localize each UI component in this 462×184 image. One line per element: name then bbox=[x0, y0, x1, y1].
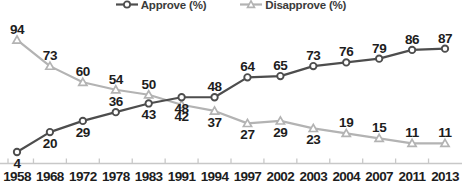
data-label: 73 bbox=[43, 49, 57, 63]
x-axis-tick-label: 1978 bbox=[102, 170, 130, 184]
approval-line-chart: Approve (%) Disapprove (%) 4202936434848… bbox=[0, 0, 462, 184]
data-label: 60 bbox=[76, 65, 90, 79]
data-label: 73 bbox=[306, 49, 320, 63]
x-axis-tick-label: 2004 bbox=[332, 170, 360, 184]
data-label: 29 bbox=[273, 126, 287, 140]
x-axis-tick-label: 1958 bbox=[3, 170, 31, 184]
data-label: 76 bbox=[339, 45, 353, 59]
data-label: 94 bbox=[10, 23, 24, 37]
data-label: 79 bbox=[372, 42, 386, 56]
x-axis-tick-label: 1994 bbox=[201, 170, 229, 184]
x-axis-tick-label: 1983 bbox=[135, 170, 163, 184]
data-label: 23 bbox=[306, 133, 320, 147]
data-label: 50 bbox=[142, 78, 156, 92]
x-axis-tick-label: 2011 bbox=[399, 170, 426, 184]
x-axis-tick-label: 1991 bbox=[168, 170, 196, 184]
data-label: 27 bbox=[240, 128, 254, 142]
data-label: 20 bbox=[43, 137, 57, 151]
data-label: 36 bbox=[109, 95, 123, 109]
x-axis-tick-label: 1972 bbox=[69, 170, 97, 184]
data-label: 54 bbox=[109, 73, 123, 87]
x-axis-tick-label: 2013 bbox=[431, 170, 459, 184]
data-label: 15 bbox=[372, 121, 386, 135]
x-axis-tick-label: 2002 bbox=[267, 170, 295, 184]
data-label: 64 bbox=[240, 60, 254, 74]
x-axis-tick-label: 1968 bbox=[36, 170, 64, 184]
data-label: 65 bbox=[273, 59, 287, 73]
data-label: 42 bbox=[175, 110, 189, 124]
data-label: 29 bbox=[76, 126, 90, 140]
data-label: 43 bbox=[142, 108, 156, 122]
x-axis-tick-label: 2007 bbox=[365, 170, 393, 184]
data-label: 86 bbox=[405, 33, 419, 47]
data-label: 11 bbox=[405, 126, 418, 140]
chart-plot-area bbox=[0, 0, 462, 184]
x-axis bbox=[0, 159, 462, 164]
x-axis-ticks bbox=[8, 159, 429, 164]
data-label: 11 bbox=[438, 126, 451, 140]
data-label: 48 bbox=[207, 80, 221, 94]
x-axis-tick-label: 2003 bbox=[299, 170, 327, 184]
data-label: 87 bbox=[438, 32, 452, 46]
data-label: 19 bbox=[339, 116, 353, 130]
x-axis-tick-label: 1997 bbox=[234, 170, 262, 184]
data-label: 37 bbox=[207, 116, 221, 130]
